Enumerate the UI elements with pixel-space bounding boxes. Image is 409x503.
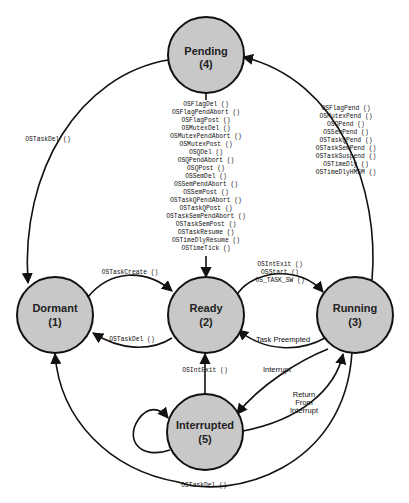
- label-pending-dormant: OSTaskDel (): [25, 136, 70, 143]
- svg-text:OSTaskSemPend (): OSTaskSemPend (): [316, 145, 376, 152]
- svg-text:OSFlagPend (): OSFlagPend (): [321, 105, 370, 112]
- svg-text:OSFlagPendAbort (): OSFlagPendAbort (): [172, 109, 240, 116]
- svg-text:OS_TASK_SW (): OS_TASK_SW (): [255, 277, 304, 284]
- svg-text:OSFlagDel (): OSFlagDel (): [183, 101, 228, 108]
- svg-text:OSQDel (): OSQDel (): [189, 149, 223, 156]
- edge-interrupted-self: [133, 410, 170, 453]
- node-ready: Ready (2): [168, 277, 244, 353]
- svg-text:(3): (3): [348, 316, 362, 328]
- label-running-interrupted: Interrupt: [263, 365, 292, 374]
- label-dormant-ready: OSTaskCreate (): [102, 269, 159, 276]
- svg-text:Interrupt: Interrupt: [290, 406, 319, 415]
- svg-text:OSSemPost (): OSSemPost (): [183, 189, 228, 196]
- svg-text:OSMutexDel (): OSMutexDel (): [181, 125, 230, 132]
- label-interrupted-running: Return From Interrupt: [290, 390, 319, 415]
- svg-text:OSQPendAbort (): OSQPendAbort (): [178, 157, 235, 164]
- svg-text:OSTaskQPend (): OSTaskQPend (): [320, 137, 373, 144]
- svg-text:OSTimeDlyHMSM (): OSTimeDlyHMSM (): [316, 169, 376, 176]
- svg-text:OSSemDel (): OSSemDel (): [185, 173, 227, 180]
- svg-text:(5): (5): [198, 433, 212, 445]
- svg-text:OSMutexPost (): OSMutexPost (): [180, 141, 233, 148]
- svg-text:OSMutexPendAbort (): OSMutexPendAbort (): [170, 133, 242, 140]
- node-dormant: Dormant (1): [17, 277, 93, 353]
- svg-text:Running: Running: [333, 302, 378, 314]
- svg-text:OSSemPendAbort (): OSSemPendAbort (): [174, 181, 238, 188]
- label-interrupted-ready: OSIntExit (): [182, 367, 227, 374]
- label-running-dormant: OSTaskDel (): [181, 482, 226, 489]
- label-pending-ready: OSFlagDel () OSFlagPendAbort () OSFlagPo…: [166, 101, 245, 252]
- svg-text:OSFlagPost (): OSFlagPost (): [181, 117, 230, 124]
- task-state-diagram: Pending (4) Dormant (1) Ready (2) Runnin…: [0, 0, 409, 503]
- label-ready-running: OSIntExit () OSStart () OS_TASK_SW (): [255, 261, 304, 284]
- label-ready-dormant: OSTaskDel (): [109, 336, 154, 343]
- svg-text:OSTaskSemPost (): OSTaskSemPost (): [176, 221, 236, 228]
- edge-running-interrupted: [237, 349, 328, 414]
- svg-text:OSSemPend (): OSSemPend (): [323, 129, 368, 136]
- svg-text:Dormant: Dormant: [32, 302, 78, 314]
- svg-text:OSTimeDly (): OSTimeDly (): [323, 161, 368, 168]
- svg-text:(2): (2): [199, 316, 213, 328]
- svg-text:OSQPost (): OSQPost (): [187, 165, 225, 172]
- node-interrupted: Interrupted (5): [167, 394, 243, 470]
- svg-text:OSTaskQPost (): OSTaskQPost (): [180, 205, 233, 212]
- label-running-ready: Task Preempted: [256, 335, 310, 344]
- svg-text:OSTaskQPendAbort (): OSTaskQPendAbort (): [170, 197, 242, 204]
- svg-text:OSTaskResume (): OSTaskResume (): [178, 229, 235, 236]
- svg-text:OSStart (): OSStart (): [261, 269, 299, 276]
- edge-pending-dormant: [27, 60, 168, 283]
- svg-text:(4): (4): [199, 58, 213, 70]
- svg-text:OSTaskSemPendAbort (): OSTaskSemPendAbort (): [166, 213, 245, 220]
- node-running: Running (3): [317, 277, 393, 353]
- svg-text:OSQPend (): OSQPend (): [327, 121, 365, 128]
- svg-text:Interrupted: Interrupted: [176, 419, 234, 431]
- svg-text:OSTimeTick (): OSTimeTick (): [181, 245, 230, 252]
- svg-text:OSTaskSuspend (): OSTaskSuspend (): [316, 153, 376, 160]
- svg-text:OSMutexPend (): OSMutexPend (): [320, 113, 373, 120]
- node-pending: Pending (4): [168, 17, 244, 93]
- svg-text:Pending: Pending: [184, 45, 227, 57]
- svg-text:OSTimeDlyResume (): OSTimeDlyResume (): [172, 237, 240, 244]
- svg-text:OSIntExit (): OSIntExit (): [257, 261, 302, 268]
- label-running-pending: OSFlagPend () OSMutexPend () OSQPend () …: [316, 105, 376, 176]
- svg-text:(1): (1): [48, 316, 62, 328]
- edge-dormant-ready: [88, 275, 172, 297]
- svg-text:Ready: Ready: [189, 302, 223, 314]
